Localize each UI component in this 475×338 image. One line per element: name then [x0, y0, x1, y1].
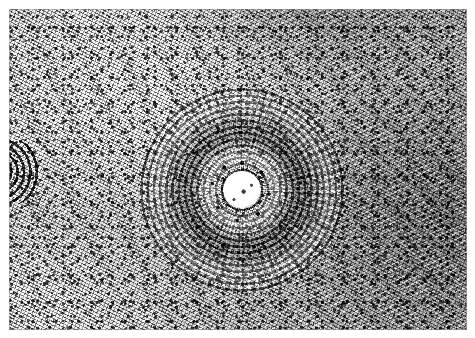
perilumenal-nuclear-collar	[202, 150, 282, 230]
secondary-whorl-clipped-at-left-edge	[9, 138, 42, 206]
secondary-whorl-cell-dashes	[9, 138, 42, 206]
micrograph-plate	[9, 9, 467, 330]
micrograph-page	[0, 0, 475, 338]
